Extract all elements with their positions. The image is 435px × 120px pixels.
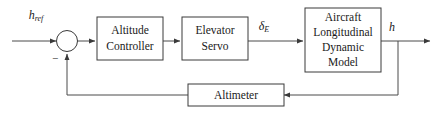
- altimeter-label: Altimeter: [214, 89, 258, 101]
- elevator-deflection-subscript: E: [263, 25, 269, 34]
- elevator-servo-label-line-1: Elevator: [196, 24, 235, 36]
- signal-label-elevator-deflection: δE: [259, 19, 270, 34]
- altitude-controller-label-line-1: Altitude: [111, 24, 149, 36]
- elevator-servo-label-line-2: Servo: [202, 40, 229, 52]
- reference-subscript: ref: [35, 14, 45, 23]
- block-diagram: Altitude Controller Elevator Servo Aircr…: [0, 0, 435, 120]
- diagram-canvas: Altitude Controller Elevator Servo Aircr…: [0, 0, 435, 120]
- summing-junction: [57, 31, 78, 52]
- aircraft-model-label-line-3: Dynamic: [322, 41, 364, 54]
- aircraft-model-label-line-1: Aircraft: [325, 11, 362, 23]
- aircraft-model-label-line-2: Longitudinal: [313, 26, 372, 39]
- altitude-controller-label-line-2: Controller: [106, 40, 153, 52]
- aircraft-model-label-line-4: Model: [328, 56, 358, 68]
- summing-junction-negative-sign: −: [52, 52, 58, 64]
- signal-label-output-altitude: h: [389, 20, 395, 34]
- signal-label-reference: href: [29, 8, 45, 23]
